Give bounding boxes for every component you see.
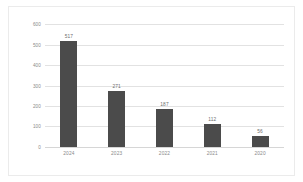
bar-value-label-2022: 187 xyxy=(160,102,168,107)
y-axis-tick-400: 400 xyxy=(33,62,41,67)
y-axis-tick-0: 0 xyxy=(38,145,41,150)
bar-value-label-2020: 56 xyxy=(257,129,263,134)
bar-value-label-2023: 271 xyxy=(112,84,120,89)
y-axis-tick-600: 600 xyxy=(33,22,41,27)
bar-series: 517 271 187 112 56 xyxy=(45,24,284,147)
bar-2024[interactable] xyxy=(60,41,77,147)
plot-area: 600 500 400 300 200 100 0 517 271 xyxy=(45,24,284,147)
bar-value-label-2024: 517 xyxy=(65,34,73,39)
x-axis-tick-2024: 2024 xyxy=(45,151,93,156)
bar-2020[interactable] xyxy=(252,136,269,147)
bar-slot-2024: 517 xyxy=(45,24,93,147)
x-axis-tick-2023: 2023 xyxy=(93,151,141,156)
bar-slot-2021: 112 xyxy=(188,24,236,147)
bar-2023[interactable] xyxy=(108,91,125,147)
gridline-0: 0 xyxy=(45,147,284,148)
x-axis-tick-2022: 2022 xyxy=(141,151,189,156)
bar-slot-2023: 271 xyxy=(93,24,141,147)
bar-slot-2020: 56 xyxy=(236,24,284,147)
bar-2021[interactable] xyxy=(204,124,221,147)
bar-value-label-2021: 112 xyxy=(208,117,216,122)
x-axis-tick-2021: 2021 xyxy=(188,151,236,156)
bar-slot-2022: 187 xyxy=(141,24,189,147)
y-axis-tick-200: 200 xyxy=(33,104,41,109)
x-axis: 2024 2023 2022 2021 2020 xyxy=(45,151,284,165)
y-axis-tick-100: 100 xyxy=(33,124,41,129)
chart-frame: 600 500 400 300 200 100 0 517 271 xyxy=(8,6,295,176)
y-axis-tick-500: 500 xyxy=(33,42,41,47)
x-axis-tick-2020: 2020 xyxy=(236,151,284,156)
bar-2022[interactable] xyxy=(156,109,173,147)
y-axis-tick-300: 300 xyxy=(33,83,41,88)
